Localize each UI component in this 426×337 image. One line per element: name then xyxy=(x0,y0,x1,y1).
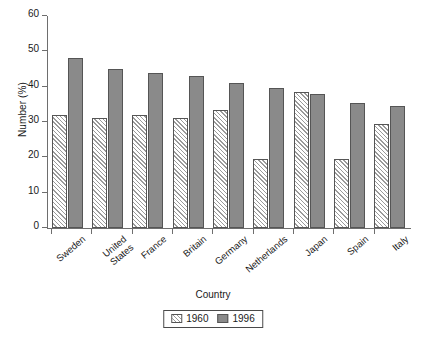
bar-1996-germany xyxy=(229,83,244,228)
bar-1996-spain xyxy=(350,103,365,228)
y-tick-30: 30 xyxy=(42,121,47,122)
bar-group xyxy=(374,16,405,228)
x-tick-5 xyxy=(253,229,254,234)
bar-group xyxy=(213,16,244,228)
x-tick-3 xyxy=(172,229,173,234)
x-tick-1 xyxy=(91,229,92,234)
y-tick-10: 10 xyxy=(42,192,47,193)
x-tick-6 xyxy=(293,229,294,234)
y-tick-label-20: 20 xyxy=(28,149,39,160)
bar-1996-united-states xyxy=(108,69,123,228)
legend-item-1996: 1996 xyxy=(218,313,255,324)
bar-1960-italy xyxy=(374,124,389,228)
y-tick-label-0: 0 xyxy=(33,220,39,231)
y-tick-40: 40 xyxy=(42,86,47,87)
y-tick-20: 20 xyxy=(42,156,47,157)
y-axis-title: Number (%) xyxy=(17,50,28,170)
bar-1960-netherlands xyxy=(253,159,268,228)
bar-group xyxy=(334,16,365,228)
bar-1996-italy xyxy=(390,106,405,228)
y-tick-label-60: 60 xyxy=(28,8,39,19)
chart-legend: 1960 1996 xyxy=(163,310,263,328)
bar-1996-sweden xyxy=(68,58,83,228)
legend-item-1960: 1960 xyxy=(171,313,208,324)
bar-1960-sweden xyxy=(52,115,67,228)
y-tick-label-40: 40 xyxy=(28,79,39,90)
bar-group xyxy=(253,16,284,228)
bar-group xyxy=(132,16,163,228)
x-tick-2 xyxy=(132,229,133,234)
y-axis-line xyxy=(47,16,48,229)
x-tick-4 xyxy=(212,229,213,234)
x-tick-8 xyxy=(374,229,375,234)
bar-1996-britain xyxy=(189,76,204,228)
legend-swatch-1996-icon xyxy=(218,314,229,323)
bar-1960-britain xyxy=(173,118,188,228)
x-tick-7 xyxy=(333,229,334,234)
bar-1996-japan xyxy=(310,94,325,228)
x-axis-line xyxy=(47,228,411,229)
x-axis-title: Country xyxy=(0,289,426,300)
y-tick-label-50: 50 xyxy=(28,43,39,54)
bar-1996-france xyxy=(148,73,163,228)
plot-area: 0102030405060 xyxy=(47,16,410,228)
y-tick-label-30: 30 xyxy=(28,114,39,125)
y-tick-label-10: 10 xyxy=(28,185,39,196)
bar-1960-france xyxy=(132,115,147,228)
x-tick-0 xyxy=(51,229,52,234)
bar-group xyxy=(173,16,204,228)
bar-chart: Number (%) 0102030405060 SwedenUnited St… xyxy=(0,0,426,337)
bar-1996-netherlands xyxy=(269,88,284,228)
legend-swatch-1960-icon xyxy=(171,314,182,323)
bar-1960-japan xyxy=(294,92,309,228)
y-tick-50: 50 xyxy=(42,50,47,51)
bar-1960-germany xyxy=(213,110,228,228)
y-tick-60: 60 xyxy=(42,15,47,16)
legend-label-1996: 1996 xyxy=(233,313,255,324)
y-tick-0: 0 xyxy=(42,227,47,228)
bar-group xyxy=(294,16,325,228)
legend-label-1960: 1960 xyxy=(186,313,208,324)
bar-group xyxy=(92,16,123,228)
bar-1960-united-states xyxy=(92,118,107,228)
bar-group xyxy=(52,16,83,228)
bar-1960-spain xyxy=(334,159,349,228)
